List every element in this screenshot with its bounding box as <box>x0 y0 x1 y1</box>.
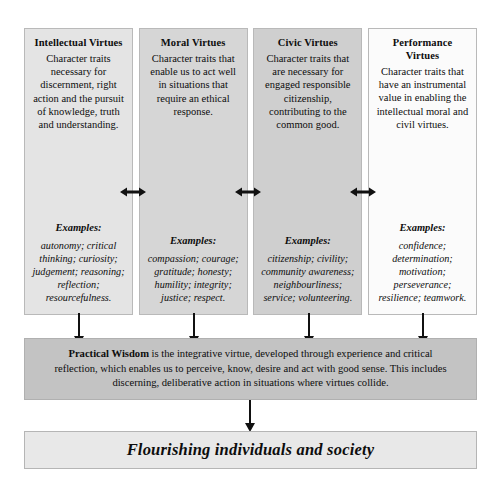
examples-label: Examples: <box>375 221 470 235</box>
practical-wisdom-box: Practical Wisdom is the integrative virt… <box>24 338 477 400</box>
examples-block: Examples: autonomy; critical thinking; c… <box>31 221 126 308</box>
practical-wisdom-lead: Practical Wisdom <box>68 348 149 359</box>
column-description: Character traits that are necessary for … <box>260 52 355 131</box>
examples-block: Examples: compassion; courage; gratitude… <box>146 234 241 308</box>
virtue-column-performance: Performance Virtues Character traits tha… <box>368 28 477 315</box>
examples-label: Examples: <box>146 234 241 248</box>
column-title: Intellectual Virtues <box>34 36 122 49</box>
column-description: Character traits that have an instrument… <box>375 65 470 131</box>
examples-label: Examples: <box>260 234 355 248</box>
virtues-diagram: Intellectual Virtues Character traits ne… <box>0 0 500 489</box>
column-description: Character traits necessary for discernme… <box>31 52 126 131</box>
virtue-column-civic: Civic Virtues Character traits that are … <box>253 28 362 315</box>
examples-block: Examples: citizenship; civility; communi… <box>260 234 355 308</box>
double-headed-arrow-icon <box>235 186 261 198</box>
examples-block: Examples: confidence; determination; mot… <box>375 221 470 308</box>
virtue-column-moral: Moral Virtues Character traits that enab… <box>139 28 248 315</box>
examples-label: Examples: <box>31 221 126 235</box>
virtue-columns-row: Intellectual Virtues Character traits ne… <box>24 28 477 315</box>
column-title: Civic Virtues <box>278 36 338 49</box>
outcome-box: Flourishing individuals and society <box>24 431 477 469</box>
double-headed-arrow-icon <box>120 186 146 198</box>
outcome-label: Flourishing individuals and society <box>127 440 375 460</box>
column-description: Character traits that enable us to act w… <box>146 52 241 118</box>
down-arrow-icon <box>244 400 256 432</box>
double-headed-arrow-icon <box>350 186 376 198</box>
virtue-column-intellectual: Intellectual Virtues Character traits ne… <box>24 28 133 315</box>
examples-text: compassion; courage; gratitude; honesty;… <box>146 252 241 308</box>
examples-text: confidence; determination; motivation; p… <box>375 239 470 308</box>
examples-text: citizenship; civility; community awarene… <box>260 252 355 308</box>
column-title: Performance Virtues <box>375 36 470 62</box>
practical-wisdom-text: Practical Wisdom is the integrative virt… <box>47 347 454 391</box>
column-title: Moral Virtues <box>161 36 226 49</box>
examples-text: autonomy; critical thinking; curiosity; … <box>31 239 126 308</box>
